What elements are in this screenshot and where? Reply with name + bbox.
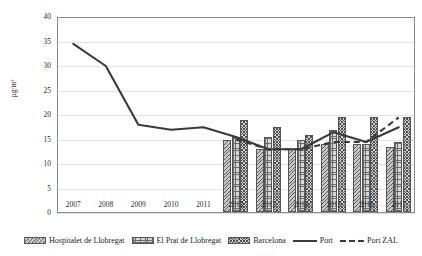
chart-legend: Hospitalet de LlobregatEl Prat de Llobre…	[0, 236, 422, 245]
x-axis-tick-label: 2017	[379, 200, 419, 209]
y-axis-tick-label: 5	[27, 185, 51, 193]
dashed-line-swatch-icon	[340, 240, 364, 242]
solid-line-swatch-icon	[293, 240, 317, 242]
legend-item-label: Port	[320, 236, 333, 245]
y-axis-tick-label: 20	[27, 111, 51, 119]
y-axis-tick-label: 30	[27, 62, 51, 70]
legend-item[interactable]: Barcelona	[228, 236, 285, 245]
bar-cross-hatch-swatch-icon	[228, 237, 250, 244]
y-axis-tick-label: 40	[27, 13, 51, 21]
line-port	[73, 44, 398, 149]
plot-area	[57, 17, 415, 213]
y-axis-title-wrapper: µg/m³	[4, 0, 20, 196]
legend-item-label: Hospitalet de Llobregat	[49, 236, 125, 245]
chart-container: µg/m³ 0510152025303540 20072008200920102…	[0, 0, 422, 256]
y-axis-tick-label: 35	[27, 38, 51, 46]
legend-item[interactable]: El Prat de Llobregat	[132, 236, 222, 245]
bar-diagonal-hatch-swatch-icon	[24, 237, 46, 244]
y-axis-tick-label: 15	[27, 136, 51, 144]
gridline	[57, 213, 415, 214]
line-series-layer	[57, 17, 415, 213]
legend-item-label: Port ZAL	[367, 236, 398, 245]
y-axis-tick-label: 0	[27, 209, 51, 217]
bar-grid-hatch-swatch-icon	[132, 237, 154, 244]
y-axis-tick-label: 10	[27, 160, 51, 168]
legend-item[interactable]: Port	[293, 236, 333, 245]
y-axis-title: µg/m³	[9, 54, 18, 124]
legend-item-label: Barcelona	[253, 236, 285, 245]
legend-item[interactable]: Hospitalet de Llobregat	[24, 236, 125, 245]
y-axis-tick-label: 25	[27, 87, 51, 95]
legend-item[interactable]: Port ZAL	[340, 236, 398, 245]
line-port-zal	[236, 117, 399, 149]
legend-item-label: El Prat de Llobregat	[157, 236, 222, 245]
